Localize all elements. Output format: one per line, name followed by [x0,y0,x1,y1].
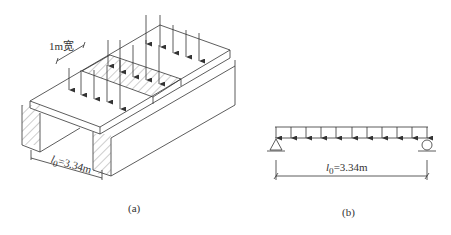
diagram-canvas [0,0,451,235]
span-label-b: l0=3.34m [326,161,368,176]
width-label: 1m宽 [49,37,74,53]
caption-a: (a) [128,202,140,214]
caption-b: (b) [342,206,355,218]
span-value: =3.34m [334,161,368,173]
